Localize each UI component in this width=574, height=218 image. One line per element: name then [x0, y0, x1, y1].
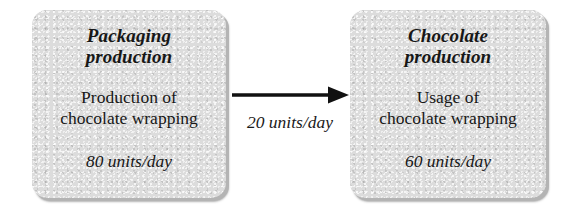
process-node-chocolate-production[interactable]: Chocolate production Usage of chocolate … — [350, 10, 546, 198]
flow-arrow-label: 20 units/day — [226, 112, 354, 133]
process-node-rate: 60 units/day — [401, 151, 495, 171]
process-node-description: Production of chocolate wrapping — [56, 87, 202, 129]
process-node-rate: 80 units/day — [82, 151, 176, 171]
process-node-title: Chocolate production — [397, 25, 500, 67]
process-node-title: Packaging production — [78, 25, 181, 67]
process-node-packaging-production[interactable]: Packaging production Production of choco… — [32, 10, 226, 198]
flow-arrow-head-icon — [328, 87, 349, 104]
flow-arrow-connector — [228, 78, 352, 112]
process-node-description: Usage of chocolate wrapping — [375, 87, 521, 129]
process-flow-diagram: Packaging production Production of choco… — [0, 0, 574, 218]
